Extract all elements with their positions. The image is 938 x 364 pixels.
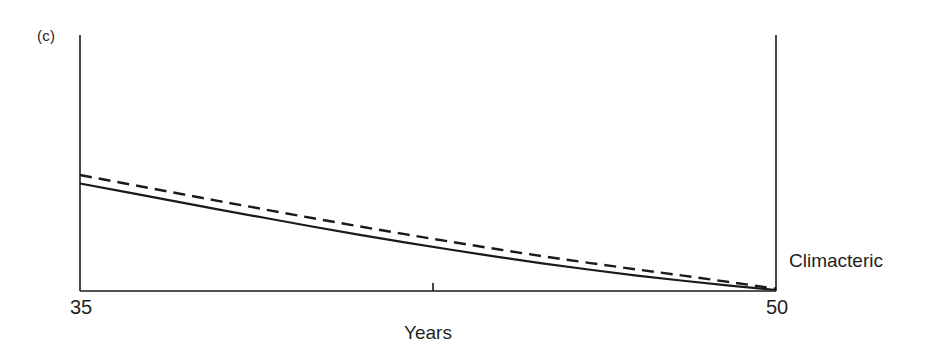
- series-dashed-curve: [80, 175, 776, 289]
- x-axis-title: Years: [404, 322, 452, 344]
- climacteric-annotation: Climacteric: [789, 250, 883, 272]
- x-axis-tick-label-end: 50: [766, 296, 788, 319]
- chart-plot-area: [0, 0, 938, 364]
- figure-panel: (c) 35 50 Years Climacteric: [0, 0, 938, 364]
- x-axis-tick-label-start: 35: [70, 296, 92, 319]
- panel-label: (c): [37, 27, 55, 44]
